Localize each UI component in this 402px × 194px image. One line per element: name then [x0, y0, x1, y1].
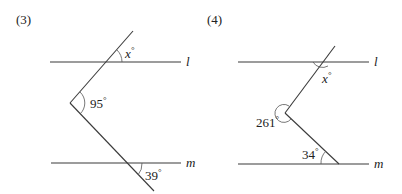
angle-34-label: 34° [302, 146, 319, 162]
angle-x-arc [117, 50, 122, 62]
angle-39-arc [138, 163, 142, 175]
line-l-label: l [374, 54, 378, 69]
figure-3: (3) l m x° 95° 39° [16, 12, 195, 191]
angle-x-label: x° [321, 70, 332, 86]
figure-4-label: (4) [207, 12, 222, 27]
line-l-label: l [186, 54, 190, 69]
angle-95-label: 95° [90, 95, 107, 111]
angle-261-label: 261° [256, 114, 280, 130]
angle-95-arc [80, 92, 85, 114]
figure-4: (4) l m x° 261° 34° [207, 12, 383, 171]
angle-x-label: x° [124, 45, 135, 61]
angle-34-arc [321, 151, 326, 164]
geometry-diagrams: (3) l m x° 95° 39° (4) l m x° 261° 34° [0, 0, 402, 194]
figure-3-label: (3) [16, 12, 31, 27]
lower-transversal [70, 103, 154, 191]
line-m-label: m [186, 155, 195, 170]
upper-transversal [70, 31, 133, 103]
angle-39-label: 39° [145, 167, 162, 183]
line-m-label: m [374, 156, 383, 171]
